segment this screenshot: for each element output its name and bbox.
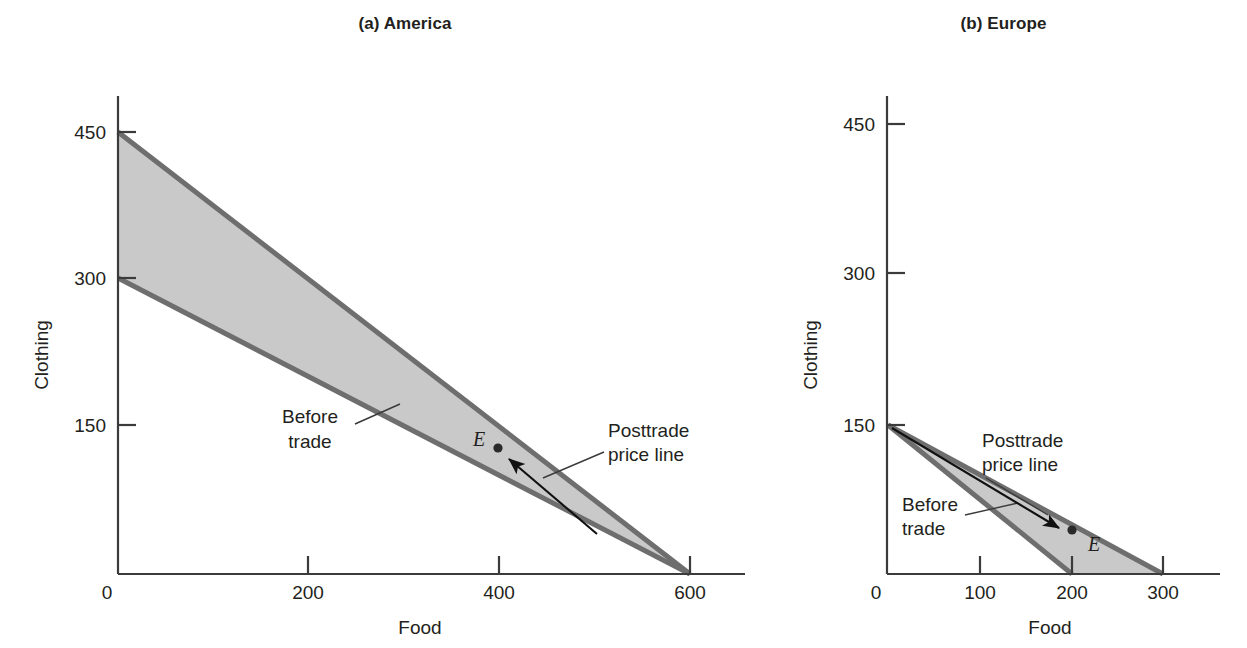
posttrade-label-line2-america: price line	[608, 444, 684, 465]
panel-america: (a) America 450 300 150 0	[0, 0, 760, 648]
panel-europe: (b) Europe 450 300 150 0	[760, 0, 1247, 648]
x-axis-title-america: Food	[398, 617, 441, 638]
x-tick-label-0-europe: 0	[871, 582, 882, 603]
x-tick-label-200-europe: 200	[1056, 582, 1088, 603]
chart-europe: 450 300 150 0 100 200 300 Food Clothing …	[760, 0, 1247, 648]
before-trade-label-line2-america: trade	[288, 431, 331, 452]
before-trade-label-line1-europe: Before	[902, 494, 958, 515]
trade-gains-figure: (a) America 450 300 150 0	[0, 0, 1247, 648]
before-trade-line-america	[118, 278, 690, 574]
x-tick-label-600-america: 600	[674, 582, 706, 603]
x-axis-title-europe: Food	[1028, 617, 1071, 638]
y-tick-label-450-america: 450	[74, 122, 106, 143]
x-tick-label-100-europe: 100	[964, 582, 996, 603]
chart-america: 450 300 150 0 200 400 600 Food Clothing …	[0, 0, 760, 648]
y-tick-label-150-america: 150	[74, 415, 106, 436]
point-e-marker-america	[493, 443, 502, 452]
x-tick-label-200-america: 200	[292, 582, 324, 603]
y-axis-title-america: Clothing	[31, 320, 52, 390]
y-tick-label-450-europe: 450	[843, 114, 875, 135]
posttrade-label-line1-america: Posttrade	[608, 420, 689, 441]
posttrade-price-line-america	[118, 132, 690, 574]
x-tick-label-0-america: 0	[102, 582, 113, 603]
point-e-label-america: E	[472, 428, 485, 450]
x-tick-label-300-europe: 300	[1147, 582, 1179, 603]
y-tick-label-300-america: 300	[74, 268, 106, 289]
point-e-label-europe: E	[1087, 533, 1100, 555]
before-trade-label-line1-america: Before	[282, 406, 338, 427]
point-e-marker-europe	[1067, 525, 1076, 534]
posttrade-label-line1-europe: Posttrade	[982, 430, 1063, 451]
y-tick-label-150-europe: 150	[843, 415, 875, 436]
y-axis-title-europe: Clothing	[800, 320, 821, 390]
posttrade-label-line2-europe: price line	[982, 454, 1058, 475]
y-tick-label-300-europe: 300	[843, 263, 875, 284]
x-tick-label-400-america: 400	[483, 582, 515, 603]
before-trade-label-line2-europe: trade	[902, 518, 945, 539]
